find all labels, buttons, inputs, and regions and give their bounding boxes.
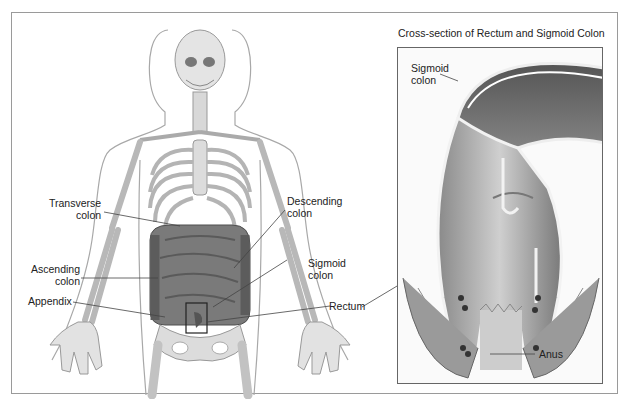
skull-shape xyxy=(175,30,225,90)
label-line: colon xyxy=(49,209,101,221)
label-anus: Anus xyxy=(539,348,563,360)
label-line: Appendix xyxy=(28,295,72,307)
label-line: Rectum xyxy=(329,300,365,312)
label-descending-colon: Descending colon xyxy=(287,195,342,219)
label-line: Descending xyxy=(287,195,342,207)
label-line: colon xyxy=(308,269,346,281)
inset-title: Cross-section of Rectum and Sigmoid Colo… xyxy=(398,27,605,39)
intestines-shape xyxy=(150,225,250,325)
label-line: colon xyxy=(31,275,80,287)
label-appendix: Appendix xyxy=(28,295,72,307)
label-sigmoid-colon: Sigmoid colon xyxy=(308,257,346,281)
label-line: Anus xyxy=(539,348,563,360)
label-line: Transverse xyxy=(49,197,101,209)
label-line: colon xyxy=(287,207,342,219)
label-inset-sigmoid-colon: Sigmoid colon xyxy=(411,62,449,86)
label-line: Sigmoid xyxy=(411,62,449,74)
label-transverse-colon: Transverse colon xyxy=(49,197,101,221)
cross-section-inset: Sigmoid colon Anus xyxy=(397,47,603,384)
label-line: colon xyxy=(411,74,449,86)
label-ascending-colon: Ascending colon xyxy=(31,263,80,287)
label-rectum: Rectum xyxy=(329,300,365,312)
label-line: Sigmoid xyxy=(308,257,346,269)
rectum-cross-section-illustration xyxy=(398,48,603,384)
label-line: Ascending xyxy=(31,263,80,275)
